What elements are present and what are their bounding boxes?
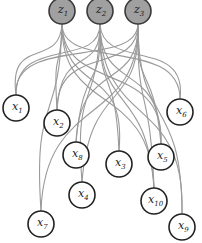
node-x8-subscript: 8 bbox=[78, 154, 83, 162]
node-x10-subscript: 10 bbox=[154, 200, 163, 208]
node-x7: x7 bbox=[28, 211, 54, 237]
node-x3: x3 bbox=[106, 151, 132, 177]
node-x1-subscript: 1 bbox=[18, 107, 22, 115]
node-x8: x8 bbox=[63, 142, 89, 168]
node-z2: z2 bbox=[87, 0, 113, 24]
edge-z2-x5 bbox=[100, 24, 161, 144]
node-x2-subscript: 2 bbox=[58, 122, 64, 130]
node-x4: x4 bbox=[69, 182, 95, 208]
node-x5: x5 bbox=[148, 144, 174, 170]
node-z3-subscript: 3 bbox=[140, 10, 145, 18]
node-x9-subscript: 9 bbox=[184, 226, 189, 234]
node-x5-subscript: 5 bbox=[163, 156, 168, 164]
node-x1: x1 bbox=[3, 95, 29, 121]
node-z1: z1 bbox=[49, 0, 75, 24]
node-x6: x6 bbox=[167, 99, 193, 125]
node-x4-subscript: 4 bbox=[83, 194, 88, 202]
node-z2-subscript: 2 bbox=[101, 10, 107, 18]
node-x7-subscript: 7 bbox=[43, 223, 48, 231]
node-x10: x10 bbox=[141, 188, 167, 214]
node-x2: x2 bbox=[44, 110, 70, 136]
node-z1-subscript: 1 bbox=[64, 10, 68, 18]
node-z3: z3 bbox=[125, 0, 151, 24]
latent-variable-diagram: z1z2z3x1x2x3x4x5x6x7x8x9x10 bbox=[0, 0, 202, 243]
node-x6-subscript: 6 bbox=[182, 111, 187, 119]
edge-layer bbox=[15, 24, 182, 214]
node-x3-subscript: 3 bbox=[121, 163, 126, 171]
node-x9: x9 bbox=[169, 214, 195, 240]
